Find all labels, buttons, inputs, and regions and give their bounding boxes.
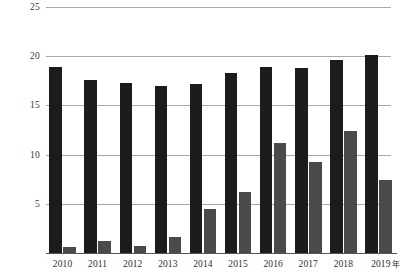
x-axis-unit-label: 年 — [392, 260, 400, 269]
bar-chart: 2010201120122013201420152016201720182019… — [0, 0, 412, 278]
bar-series-dark-2014 — [190, 84, 203, 253]
bar-series-gray-2015 — [239, 192, 252, 253]
bar-series-gray-2018 — [344, 131, 357, 253]
bar-series-dark-2011 — [84, 80, 97, 253]
bar-group — [49, 0, 76, 253]
y-tick-label: 20 — [10, 51, 40, 61]
bar-series-gray-2019 — [379, 180, 392, 253]
bar-series-dark-2018 — [330, 60, 343, 253]
bar-group — [120, 0, 147, 253]
bar-series-dark-2016 — [260, 67, 273, 253]
bar-group — [295, 0, 322, 253]
y-axis-labels: 25 20 15 10 5 — [0, 0, 40, 278]
bar-group — [260, 0, 287, 253]
bar-group — [190, 0, 217, 253]
bar-series-gray-2011 — [98, 241, 111, 253]
y-tick-label: 10 — [10, 150, 40, 160]
bar-series-gray-2013 — [169, 237, 182, 253]
bar-group — [330, 0, 357, 253]
bars-layer — [46, 0, 397, 278]
y-tick-label: 5 — [10, 199, 40, 209]
bar-series-gray-2010 — [63, 247, 76, 253]
y-tick-label: 15 — [10, 100, 40, 110]
bar-group — [84, 0, 111, 253]
bar-series-dark-2017 — [295, 68, 308, 253]
bar-series-dark-2010 — [49, 67, 62, 253]
y-tick-label: 25 — [10, 2, 40, 12]
bar-series-gray-2012 — [134, 246, 147, 253]
bar-series-gray-2014 — [204, 209, 217, 253]
bar-series-gray-2017 — [309, 162, 322, 254]
bar-group — [155, 0, 182, 253]
x-tick-label: 2019年 — [355, 258, 412, 271]
bar-series-dark-2019 — [365, 55, 378, 253]
bar-group — [225, 0, 252, 253]
bar-series-dark-2015 — [225, 73, 238, 253]
bar-series-dark-2013 — [155, 86, 168, 253]
plot-area: 2010201120122013201420152016201720182019… — [46, 0, 397, 278]
bar-group — [365, 0, 392, 253]
bar-series-gray-2016 — [274, 143, 287, 253]
bar-series-dark-2012 — [120, 83, 133, 253]
